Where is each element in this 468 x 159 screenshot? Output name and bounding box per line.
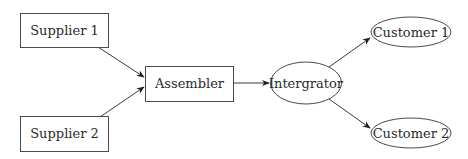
edge-supplier2-assembler <box>100 87 144 117</box>
node-assembler: Assembler <box>146 67 234 102</box>
node-label: Intergrator <box>269 76 344 91</box>
edge-integrator-customer2 <box>329 99 370 128</box>
node-supplier-2: Supplier 2 <box>21 117 109 152</box>
node-label: Customer 2 <box>373 126 450 141</box>
node-customer-2: Customer 2 <box>371 118 451 148</box>
supply-chain-diagram: Supplier 1 Supplier 2 Assembler Intergra… <box>0 0 468 159</box>
node-label: Supplier 1 <box>30 23 99 38</box>
node-supplier-1: Supplier 1 <box>21 14 109 48</box>
edge-supplier1-assembler <box>98 47 144 77</box>
edge-integrator-customer1 <box>329 38 370 67</box>
node-label: Supplier 2 <box>30 126 99 141</box>
node-label: Assembler <box>154 76 225 91</box>
node-integrator: Intergrator <box>269 62 344 104</box>
node-label: Customer 1 <box>373 25 450 40</box>
node-customer-1: Customer 1 <box>371 17 451 47</box>
